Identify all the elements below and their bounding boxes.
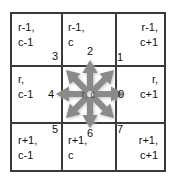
cell-top-right-line2: c+1 [122, 35, 158, 50]
arrow-5-south-west [61, 91, 94, 124]
cell-top-center-line1: r-1, [68, 20, 109, 35]
direction-label-7: 7 [117, 124, 123, 135]
direction-label-3: 3 [52, 51, 58, 62]
cell-top-center: r-1, c [62, 14, 115, 65]
direction-label-2: 2 [87, 46, 93, 57]
chain-code-figure: r-1, c-1 r-1, c r-1, c+1 r, c-1 r, c+1 r… [0, 0, 174, 181]
cell-bottom-right-line2: c+1 [122, 148, 158, 163]
cell-top-right-line1: r-1, [122, 20, 158, 35]
cell-top-right: r-1, c+1 [116, 14, 164, 65]
direction-label-5: 5 [52, 124, 58, 135]
cell-middle-right-line2: c+1 [122, 87, 158, 102]
arrow-3-north-west [61, 65, 94, 98]
cell-bottom-right: r+1, c+1 [116, 123, 164, 170]
cell-bottom-center-line2: c [68, 148, 109, 163]
cell-bottom-left-line2: c-1 [18, 148, 55, 163]
cell-top-left-line1: r-1, [18, 20, 55, 35]
cell-middle-left-line1: r, [18, 72, 55, 87]
center-cell-label: r, c [62, 66, 115, 122]
direction-label-1: 1 [117, 52, 123, 63]
direction-label-4: 4 [48, 89, 54, 100]
cell-bottom-right-line1: r+1, [122, 133, 158, 148]
direction-label-6: 6 [87, 128, 93, 139]
direction-label-0: 0 [118, 89, 124, 100]
cell-middle-right-line1: r, [122, 72, 158, 87]
cell-bottom-left-line1: r+1, [18, 133, 55, 148]
cell-top-left-line2: c-1 [18, 35, 55, 50]
neighborhood-grid: r-1, c-1 r-1, c r-1, c+1 r, c-1 r, c+1 r… [10, 12, 166, 172]
